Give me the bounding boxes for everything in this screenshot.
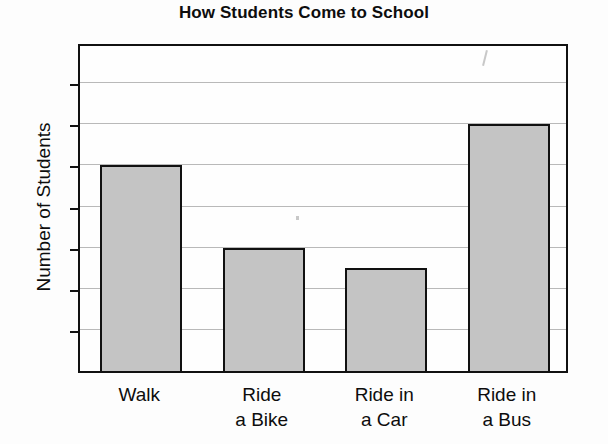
- bar: [223, 248, 305, 371]
- y-tick-mark: [70, 84, 78, 86]
- scan-speck: [482, 50, 488, 66]
- bar: [468, 124, 550, 371]
- x-axis-label-line: Ride in: [432, 382, 582, 407]
- x-axis-label: Ride ina Bus: [432, 382, 582, 432]
- bar: [345, 268, 427, 371]
- bar-chart: How Students Come to School Number of St…: [0, 0, 608, 444]
- y-tick-mark: [70, 208, 78, 210]
- plot-area: [78, 44, 568, 373]
- y-tick-mark: [70, 125, 78, 127]
- x-axis-label-line: a Bus: [432, 407, 582, 432]
- bar: [100, 165, 182, 371]
- y-tick-mark: [70, 290, 78, 292]
- y-tick-mark: [70, 331, 78, 333]
- gridline: [80, 82, 566, 83]
- y-tick-mark: [70, 166, 78, 168]
- scan-speck: [296, 216, 299, 220]
- y-tick-mark: [70, 249, 78, 251]
